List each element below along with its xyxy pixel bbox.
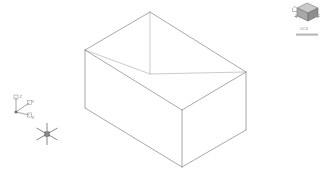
model-space-viewport[interactable]: Z Y X [0,0,321,176]
view-cube-widget[interactable]: UCS [0,0,321,176]
view-cube-ucs-menu-label[interactable]: UCS [300,27,309,31]
view-cube-rotate-ccw-arrow[interactable] [294,15,297,18]
cad-application-window: Z Y X [0,0,321,176]
view-cube-ucs-menu-bar[interactable] [296,34,318,36]
